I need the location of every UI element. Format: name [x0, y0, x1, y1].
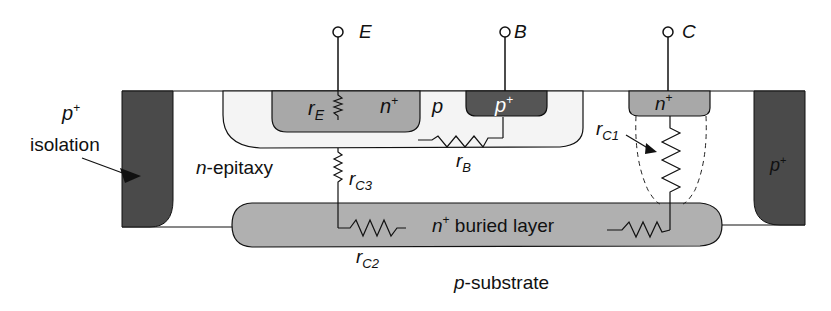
isolation-pointer-line — [82, 158, 128, 175]
buried-layer-label: n+ buried layer — [432, 213, 555, 236]
collector-terminal-icon — [663, 27, 673, 37]
rc1-arrowhead-icon — [645, 143, 657, 154]
emitter-terminal-icon — [333, 27, 343, 37]
isolation-text-label: isolation — [30, 134, 100, 155]
rc3-label: rC3 — [349, 168, 373, 193]
isolation-left — [122, 91, 173, 227]
substrate-label: p-substrate — [453, 272, 549, 293]
collector-spread-right — [683, 116, 706, 204]
rc1-label: rC1 — [596, 118, 619, 143]
collector-terminal-label: C — [682, 21, 696, 42]
isolation-left-p-label: p+ — [61, 101, 80, 124]
collector-spread-left — [636, 116, 660, 204]
base-terminal-label: B — [514, 21, 527, 42]
emitter-terminal-label: E — [359, 21, 372, 42]
rb-label: rB — [456, 150, 471, 175]
bjt-cross-section-diagram: E B C p+ isolation p+ rE n+ p p+ n+ rB r… — [0, 0, 831, 311]
base-terminal-icon — [500, 27, 510, 37]
base-p-label: p — [431, 95, 443, 117]
rc2-label: rC2 — [356, 246, 380, 271]
epitaxy-label: n-epitaxy — [196, 157, 274, 178]
